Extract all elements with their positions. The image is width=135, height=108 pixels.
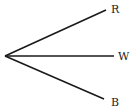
label-r: R <box>111 3 120 16</box>
ray-b <box>5 56 104 99</box>
label-w: W <box>118 50 130 63</box>
label-b: B <box>111 96 119 108</box>
rays-diagram: R W B <box>0 0 135 108</box>
ray-r <box>5 10 106 56</box>
